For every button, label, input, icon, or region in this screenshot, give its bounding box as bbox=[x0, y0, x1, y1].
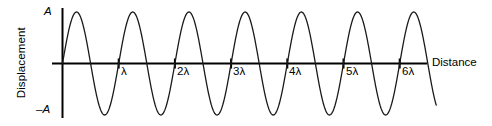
y-axis-title: Displacement bbox=[16, 9, 28, 117]
amplitude-positive-label: A bbox=[44, 6, 52, 18]
wave-diagram: Displacement Distance A –A λ 2λ 3λ 4λ 5λ… bbox=[0, 0, 492, 126]
x-tick-label-3: 3λ bbox=[233, 66, 245, 78]
x-tick-label-1: λ bbox=[121, 66, 127, 78]
wave-plot bbox=[0, 0, 492, 126]
x-tick-label-5: 5λ bbox=[346, 66, 358, 78]
amplitude-negative-label: –A bbox=[36, 104, 50, 116]
x-tick-label-4: 4λ bbox=[289, 66, 301, 78]
x-tick-label-2: 2λ bbox=[177, 66, 189, 78]
x-tick-label-6: 6λ bbox=[402, 66, 414, 78]
x-axis-title: Distance bbox=[432, 57, 477, 69]
